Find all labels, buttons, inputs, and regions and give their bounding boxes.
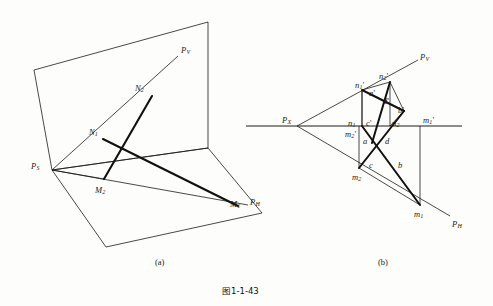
label-a-ph: PH: [250, 198, 260, 207]
label-b-ph: PH: [452, 220, 462, 229]
label-a-m1: M1: [230, 200, 240, 209]
label-a-n1: N1: [89, 128, 98, 137]
segment-n1-m1: [103, 139, 238, 206]
label-b-pv: PV: [420, 53, 429, 62]
figure-svg: [0, 0, 493, 306]
segment-n2-m2: [104, 96, 152, 179]
label-b-m2: m2: [352, 173, 361, 182]
label-b-a-prime: a': [369, 89, 375, 98]
seg-m2-m1: [359, 168, 420, 205]
label-a-pv: PV: [181, 46, 190, 55]
label-b-m2-prime: m2': [345, 130, 356, 139]
label-b-n2: n2: [392, 119, 399, 128]
subcaption-a: (a): [155, 258, 164, 267]
label-b-m1: m1: [414, 210, 423, 219]
ray-ps-m2: [52, 170, 104, 179]
label-b-n1: n1: [348, 119, 355, 128]
label-b-n2-prime: n2': [379, 72, 388, 81]
label-a-ps: PS: [31, 162, 39, 171]
label-b-d-prime: d': [383, 97, 389, 106]
label-b-b-prime: b': [398, 106, 404, 115]
diagram-a-geometry: [34, 22, 262, 247]
label-b-c-prime: c': [366, 119, 372, 128]
label-b-c: c: [369, 161, 373, 170]
figure-container: PV N2 N1 PS M2 M1 PH PV PH PX n1' n2' a'…: [0, 0, 493, 306]
label-a-n2: N2: [135, 84, 144, 93]
subcaption-b: (b): [378, 258, 388, 267]
label-b-m1-prime: m1': [423, 116, 434, 125]
horizontal-plane-a: [52, 148, 262, 247]
label-b-d: d: [385, 137, 389, 146]
label-a-m2: M2: [95, 186, 105, 195]
label-b-px: PX: [282, 116, 291, 125]
figure-caption: 图1-1-43: [222, 287, 259, 296]
ray-ps-pv: [52, 56, 178, 170]
label-b-a: a: [363, 137, 367, 146]
label-b-b: b: [398, 161, 402, 170]
label-b-n1-prime: n1': [355, 81, 364, 90]
